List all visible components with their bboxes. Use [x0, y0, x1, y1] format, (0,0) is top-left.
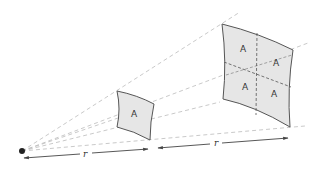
inverse-square-diagram: A A A A A r r: [0, 0, 324, 172]
distance-label-2: r: [214, 138, 219, 148]
distance-label-1: r: [83, 149, 88, 159]
far-patch-label-3: A: [242, 82, 249, 92]
light-source-dot: [19, 148, 25, 154]
distance-arrow-2: [158, 138, 288, 148]
far-patch: A A A A: [222, 24, 293, 127]
far-patch-label-4: A: [271, 89, 278, 99]
near-patch-label: A: [131, 109, 138, 119]
near-patch: A: [117, 91, 154, 140]
far-patch-label-1: A: [240, 44, 247, 54]
far-patch-label-2: A: [273, 58, 280, 68]
